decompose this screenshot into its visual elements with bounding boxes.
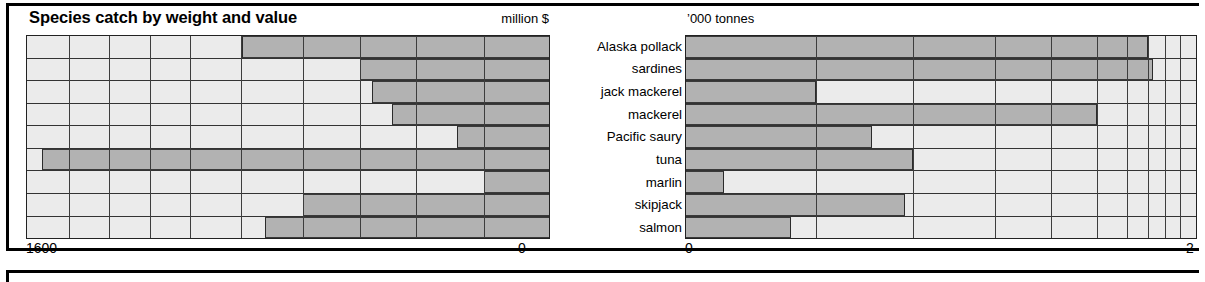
table-row xyxy=(27,59,549,82)
category-label: Alaska pollack xyxy=(554,35,682,58)
table-row xyxy=(686,217,1196,239)
value-bar xyxy=(242,36,549,58)
category-label: skipjack xyxy=(554,194,682,217)
value-axis-zero-tick: 0 xyxy=(518,240,526,256)
weight-bar xyxy=(686,171,724,193)
weight-bar xyxy=(686,126,872,148)
table-row xyxy=(686,104,1196,127)
table-row xyxy=(686,36,1196,59)
table-row xyxy=(686,126,1196,149)
table-row xyxy=(686,149,1196,172)
figure-root: Species catch by weight and value millio… xyxy=(0,0,1205,282)
weight-bar xyxy=(686,81,816,103)
weight-chart-bars xyxy=(686,36,1196,238)
left-axis-unit-label: million $ xyxy=(464,11,549,26)
weight-bar xyxy=(686,104,1097,126)
table-row xyxy=(27,104,549,127)
next-panel-top-rule xyxy=(6,270,1199,282)
value-bar xyxy=(484,171,549,193)
table-row xyxy=(27,217,549,239)
table-row xyxy=(27,149,549,172)
value-chart-plot xyxy=(26,35,550,239)
table-row xyxy=(27,194,549,217)
value-chart-bars xyxy=(27,36,549,238)
figure-header: Species catch by weight and value millio… xyxy=(9,6,1199,32)
value-bar xyxy=(303,194,549,216)
category-label: sardines xyxy=(554,58,682,81)
value-bar xyxy=(360,59,550,81)
table-row xyxy=(27,171,549,194)
category-label: salmon xyxy=(554,216,682,239)
table-row xyxy=(686,194,1196,217)
weight-bar xyxy=(686,59,1153,81)
value-bar xyxy=(265,217,550,239)
category-label: marlin xyxy=(554,171,682,194)
value-bar xyxy=(372,81,549,103)
table-row xyxy=(27,81,549,104)
weight-bar xyxy=(686,149,913,171)
category-label: jack mackerel xyxy=(554,80,682,103)
category-label: mackerel xyxy=(554,103,682,126)
weight-bar xyxy=(686,217,791,239)
page-title: Species catch by weight and value xyxy=(29,8,297,27)
category-label: tuna xyxy=(554,148,682,171)
table-row xyxy=(27,126,549,149)
weight-axis-zero-tick: 0 xyxy=(685,240,693,256)
table-row xyxy=(27,36,549,59)
category-label: Pacific saury xyxy=(554,126,682,149)
weight-chart-plot xyxy=(685,35,1197,239)
value-bar xyxy=(457,126,549,148)
table-row xyxy=(686,59,1196,82)
value-axis-max-tick: 1600 xyxy=(26,240,57,256)
right-axis-unit-label: ’000 tonnes xyxy=(687,11,754,26)
value-bar xyxy=(392,104,549,126)
category-label-list: Alaska pollacksardinesjack mackerelmacke… xyxy=(554,35,682,239)
weight-axis-max-tick: 2 xyxy=(1186,240,1194,256)
table-row xyxy=(686,81,1196,104)
table-row xyxy=(686,171,1196,194)
weight-bar xyxy=(686,194,905,216)
figure-panel: Species catch by weight and value millio… xyxy=(6,3,1199,251)
weight-bar xyxy=(686,36,1148,58)
value-bar xyxy=(42,149,549,171)
